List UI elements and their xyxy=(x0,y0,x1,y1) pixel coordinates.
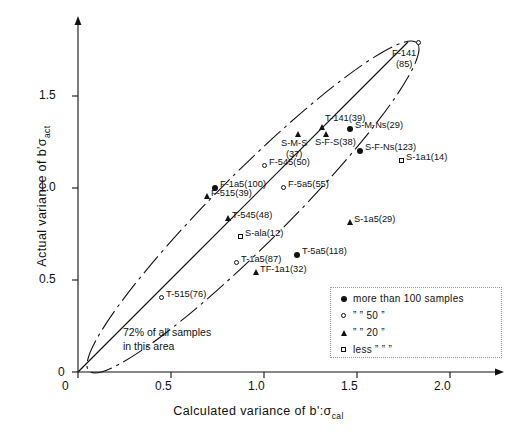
legend-row-label: ” ” 20 ” xyxy=(353,327,385,338)
data-point-marker xyxy=(253,269,259,275)
x-tick-label-1-0: 1.0 xyxy=(248,379,265,393)
y-axis-arrowhead xyxy=(75,16,82,25)
x-tick-label-2-0: 2.0 xyxy=(434,379,451,393)
triangle-icon xyxy=(341,330,347,336)
legend-row-label: more than 100 samples xyxy=(353,293,464,304)
data-point-label-count: (85) xyxy=(392,59,416,70)
legend-row-label: ” ” 50 ” xyxy=(353,310,385,321)
filled-circle-icon xyxy=(341,296,347,302)
region-annotation-line2: in this area xyxy=(123,340,211,354)
data-point-marker xyxy=(262,163,267,168)
legend-row: ” ” 50 ” xyxy=(331,308,503,325)
y-axis-title: Actual variance of b'σact xyxy=(32,6,52,386)
y-axis-title-text: Actual variance of b' xyxy=(35,146,49,267)
data-point-label-name: S-M-S xyxy=(281,138,307,149)
data-point-label: TF-1a1(32) xyxy=(260,265,307,275)
legend-row: more than 100 samples xyxy=(331,291,503,308)
data-point-marker xyxy=(225,215,231,221)
data-point-marker xyxy=(319,124,325,130)
x-tick-label-0-5: 0.5 xyxy=(155,379,172,393)
scatter-plot-figure: 0 0.5 1.0 1.5 0 0.5 1.0 1.5 2.0 Calculat… xyxy=(0,0,517,434)
x-tick-label-0: 0 xyxy=(62,379,69,393)
y-axis-sigma: σ xyxy=(35,138,49,146)
x-axis-title-text: Calculated variance of b': xyxy=(173,404,323,418)
data-point-label-name: F-141 xyxy=(392,48,416,59)
data-point-marker xyxy=(234,260,239,265)
data-point-label: T-5a5(118) xyxy=(302,247,347,257)
data-point-label: S-F-S(38) xyxy=(315,138,356,148)
data-point-label: F-545(50) xyxy=(269,158,310,168)
legend-row-label: less ” ” ” xyxy=(353,344,392,355)
y-tick-marks xyxy=(72,96,78,372)
data-point-marker xyxy=(159,295,164,300)
data-point-label: S-ala(12) xyxy=(245,229,283,239)
region-annotation-line1: 72% of all samples xyxy=(123,326,211,340)
legend-row: less ” ” ” xyxy=(331,342,503,359)
x-axis-arrowhead xyxy=(495,369,504,376)
x-axis-subscript: cal xyxy=(332,411,344,421)
data-point-label: S-1a1(14) xyxy=(406,153,447,163)
data-point-label: S-M-Ns(29) xyxy=(355,121,403,131)
data-point-marker xyxy=(399,158,404,163)
data-point-label: F-5a5(55) xyxy=(288,180,329,190)
legend: more than 100 samples ” ” 50 ” ” ” 20 ” … xyxy=(330,287,502,358)
data-point-label: T-545(48) xyxy=(232,211,272,221)
data-point-marker xyxy=(416,40,421,45)
x-tick-label-1-5: 1.5 xyxy=(341,379,358,393)
data-point-marker xyxy=(347,219,353,225)
data-point-marker xyxy=(281,185,286,190)
data-point-label: F-515(39) xyxy=(211,189,252,199)
y-tick-label-0: 0 xyxy=(58,365,65,379)
data-point-label: F-141 (85) xyxy=(392,48,416,69)
x-axis-sigma: σ xyxy=(324,404,332,418)
data-point-label: S-1a5(29) xyxy=(354,215,395,225)
data-point-marker xyxy=(295,131,301,137)
y-axis-subscript: act xyxy=(42,125,52,138)
data-point-marker xyxy=(294,252,300,258)
data-point-label: T-515(76) xyxy=(166,290,206,300)
square-icon xyxy=(341,347,346,352)
data-point-marker xyxy=(357,148,363,154)
region-annotation: 72% of all samples in this area xyxy=(123,326,211,353)
legend-row: ” ” 20 ” xyxy=(331,325,503,342)
data-point-marker xyxy=(238,234,243,239)
data-point-marker xyxy=(204,193,210,199)
data-point-marker xyxy=(347,126,353,132)
x-axis-title: Calculated variance of b':σcal xyxy=(0,404,517,421)
x-tick-marks xyxy=(78,372,450,378)
open-circle-icon xyxy=(341,313,346,318)
